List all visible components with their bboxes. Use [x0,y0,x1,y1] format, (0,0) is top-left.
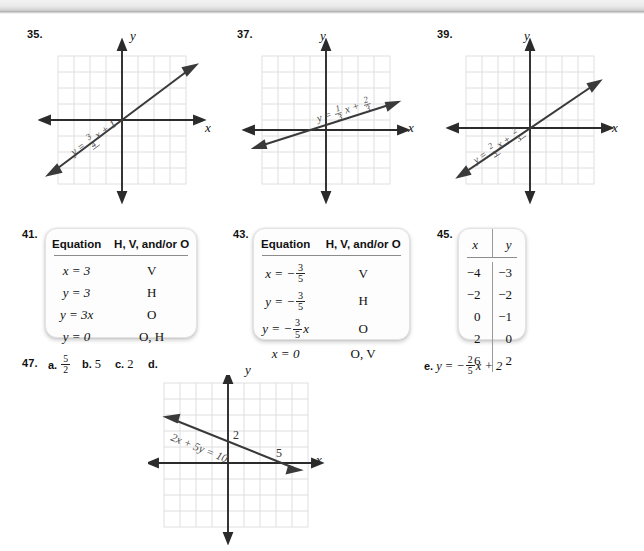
answer-47a-letter: a. [48,359,57,371]
table-row: 0 −1 [459,306,525,328]
table-41: Equation H, V, and/or O x = 3 V y = 3 H … [46,229,196,348]
table-43-answer-4: O, V [317,343,409,365]
answer-47b-value: 5 [95,357,101,371]
table-43-equation-2: y = −35 [254,288,317,316]
table-45-x-2: −2 [459,284,492,306]
table-45-x-3: 0 [459,306,492,328]
answer-47c: c.2 [115,357,133,372]
graph-35: y = 3 4 x + 1 [38,38,208,213]
table-41-answer-3: O [107,304,196,326]
answer-47e-lhs: y = − [436,359,465,373]
table-row: y = −35x O [254,315,409,343]
table-45-box: x y −4 −3 −2 −2 0 −1 2 0 [458,228,526,340]
table-41-equation-4: y = 0 [46,326,107,348]
table-row: y = 3x O [46,304,196,326]
graph-35-svg: y = 3 4 x + 1 [38,38,208,213]
table-45-x-1: −4 [459,262,492,284]
table-43-equation-1: x = −35 [254,260,317,288]
table-43-answer-1: V [317,260,409,288]
table-43: Equation H, V, and/or O x = −35 V y = −3… [254,229,409,365]
table-45-header-y: y [492,229,525,257]
table-41-header-hvo: H, V, and/or O [107,229,196,255]
table-43-eq3-fraction: 35 [293,318,302,340]
table-43-box: Equation H, V, and/or O x = −35 V y = −3… [253,228,410,340]
exercise-number-43: 43. [233,228,249,240]
table-41-equation-2: y = 3 [46,282,107,304]
table-43-equation-4: x = 0 [254,343,317,365]
table-41-header-equation: Equation [46,229,107,255]
table-45-y-2: −2 [492,284,525,306]
table-43-answer-3: O [317,315,409,343]
answer-47d: d. [148,357,161,372]
table-41-box: Equation H, V, and/or O x = 3 V y = 3 H … [45,228,197,338]
table-row: y = −35 H [254,288,409,316]
table-43-header-hvo: H, V, and/or O [317,229,409,255]
table-43-header-row: Equation H, V, and/or O [254,229,409,255]
table-45-header-row: x y [459,229,525,257]
table-45-y-3: −1 [492,306,525,328]
table-45-y-1: −3 [492,262,525,284]
answer-47a: a.52 [48,354,71,375]
exercise-number-41: 41. [22,228,38,240]
scanned-page-edge-line [0,11,644,12]
table-43-eq1-fraction: 35 [296,263,305,285]
graph-47d-gridlines [164,383,308,527]
table-41-equation-3: y = 3x [46,304,107,326]
exercise-number-45: 45. [437,228,453,240]
answer-47e-fraction: 25 [466,355,475,376]
answer-47a-fraction: 52 [61,354,70,375]
exercise-number-47: 47. [22,357,38,369]
answer-47b: b.5 [82,357,101,372]
table-41-header-row: Equation H, V, and/or O [46,229,196,255]
graph-47d-x-intercept-value: 5 [276,446,282,460]
table-row: 2 0 [459,328,525,350]
table-43-eq3-tail: x [303,321,309,336]
answer-47b-letter: b. [82,358,92,370]
table-41-equation-1: x = 3 [46,260,107,282]
table-45-y-4: 0 [492,328,525,350]
graph-47d-y-intercept-value: 2 [233,428,239,442]
table-row: y = 0 O, H [46,326,196,348]
answer-47e: e.y = −25x + 2 [424,355,502,376]
table-row: x = −35 V [254,260,409,288]
graph-47d: 2 5 2x + 5y = 10 [148,375,328,545]
answer-47d-letter: d. [148,358,158,370]
table-41-answer-1: V [107,260,196,282]
answer-47e-tail: x + 2 [476,359,502,373]
table-45-x-4: 2 [459,328,492,350]
answer-47e-letter: e. [424,360,433,372]
graph-39-svg: y = 2 3 x + 2 3 [444,38,619,213]
table-43-eq3-lhs: y = − [262,321,292,336]
table-43-header-equation: Equation [254,229,317,255]
graph-37-svg: y = 1 3 x + 2 3 [240,38,415,213]
table-row: −2 −2 [459,284,525,306]
table-43-eq1-lhs: x = − [265,266,295,281]
table-43-eq2-fraction: 35 [296,291,305,313]
answer-47c-letter: c. [115,358,124,370]
table-row: y = 3 H [46,282,196,304]
table-43-eq2-lhs: y = − [265,294,295,309]
table-row: x = 3 V [46,260,196,282]
graph-39: y = 2 3 x + 2 3 [444,38,619,213]
graph-47d-svg: 2 5 2x + 5y = 10 [148,375,328,545]
table-row: x = 0 O, V [254,343,409,365]
table-45-header-x: x [459,229,492,257]
table-41-answer-4: O, H [107,326,196,348]
table-43-answer-2: H [317,288,409,316]
table-43-equation-3: y = −35x [254,315,317,343]
graph-37: y = 1 3 x + 2 3 [240,38,415,213]
table-row: −4 −3 [459,262,525,284]
table-45: x y −4 −3 −2 −2 0 −1 2 0 [459,229,525,372]
table-41-answer-2: H [107,282,196,304]
answer-47c-value: 2 [127,357,133,371]
